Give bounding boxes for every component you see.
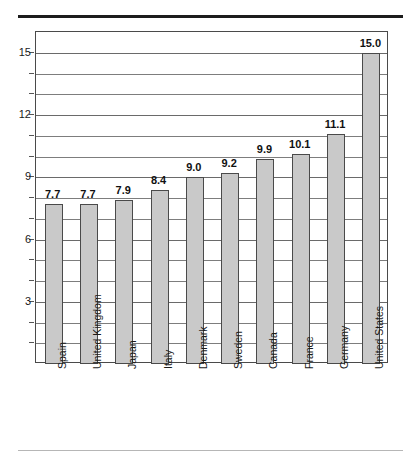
bar	[45, 204, 63, 364]
y-axis-tick-mark	[29, 93, 34, 94]
bar-value-label: 7.7	[80, 189, 95, 200]
x-axis-category-label: Sweden	[233, 331, 244, 369]
bar-value-label: 7.9	[116, 185, 131, 196]
y-axis-tick-mark	[29, 218, 34, 219]
y-axis-tick-mark	[29, 280, 34, 281]
y-axis-tick-label: 3	[25, 296, 31, 307]
bar-value-label: 8.4	[151, 175, 166, 186]
x-axis-category-label: Spain	[57, 342, 68, 369]
y-axis-tick-mark	[29, 156, 34, 157]
y-axis-tick-mark	[29, 259, 34, 260]
bar-value-label: 9.0	[186, 162, 201, 173]
x-axis-category-label: Germany	[339, 326, 350, 369]
bar-value-label: 10.1	[289, 139, 310, 150]
bar-chart-figure: 3691215 7.77.77.98.49.09.29.910.111.115.…	[0, 0, 420, 469]
x-axis-category-label: Japan	[127, 340, 138, 369]
top-divider-rule	[18, 15, 403, 18]
bar-value-label: 9.9	[257, 144, 272, 155]
gridline-minor	[36, 94, 387, 95]
y-axis-tick-mark	[29, 135, 34, 136]
x-axis-category-label: Canada	[268, 332, 279, 369]
y-axis-tick-mark	[29, 73, 34, 74]
bottom-divider-rule	[18, 450, 403, 451]
bar-value-label: 11.1	[325, 119, 346, 130]
bar	[292, 154, 310, 364]
x-axis-category-label: Italy	[163, 350, 174, 369]
y-axis-tick-mark	[29, 197, 34, 198]
y-axis-tick-label: 6	[25, 234, 31, 245]
x-axis-category-label: United States	[374, 306, 385, 369]
y-axis-tick-label: 12	[19, 109, 31, 120]
gridline-major	[36, 115, 387, 116]
y-axis-tick-label: 9	[25, 171, 31, 182]
gridline-major	[36, 53, 387, 54]
x-axis-category-label: United Kingdom	[92, 294, 103, 369]
bar-value-label: 15.0	[360, 38, 381, 49]
bar	[151, 190, 169, 364]
x-axis-category-label: Denmark	[198, 326, 209, 369]
y-axis-tick-mark	[29, 342, 34, 343]
bar-value-label: 7.7	[45, 189, 60, 200]
bar-value-label: 9.2	[221, 158, 236, 169]
gridline-minor	[36, 74, 387, 75]
y-axis: 3691215	[0, 31, 31, 363]
y-axis-tick-mark	[29, 322, 34, 323]
x-axis-category-label: France	[304, 336, 315, 369]
y-axis-tick-label: 15	[19, 47, 31, 58]
